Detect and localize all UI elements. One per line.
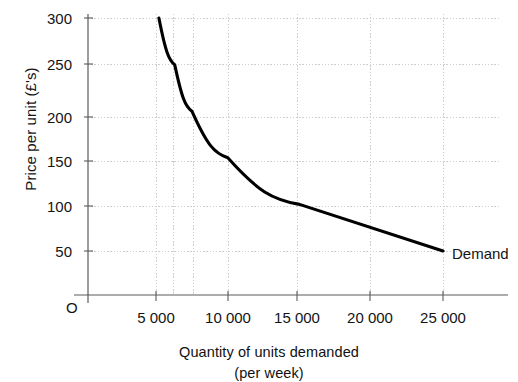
y-axis-title-text: Price per unit (£'s)	[22, 67, 39, 190]
demand-curve-path	[159, 18, 443, 251]
x-axis-title-line2: (per week)	[89, 365, 449, 381]
x-axis-title: Quantity of units demanded (per week)	[89, 344, 449, 381]
grid-lines	[88, 14, 500, 295]
origin-label: O	[66, 300, 78, 315]
xtick-label-25000: 25 000	[398, 310, 488, 325]
x-axis-ticks	[156, 291, 443, 301]
x-axis-title-line1: Quantity of units demanded	[89, 344, 449, 360]
ytick-label-300: 300	[26, 11, 72, 26]
y-axis-title: Price per unit (£'s)	[22, 34, 44, 224]
demand-series-label: Demand	[452, 246, 509, 261]
demand-curve-chart: 300 250 200 150 100 50 O 5 000 10 000 15…	[0, 0, 518, 382]
ytick-label-50: 50	[26, 244, 72, 259]
demand-series-line	[159, 18, 443, 251]
